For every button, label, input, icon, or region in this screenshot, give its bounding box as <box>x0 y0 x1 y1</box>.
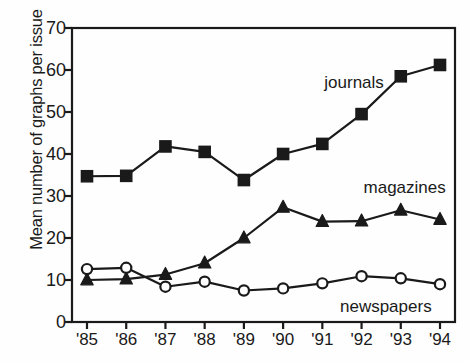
data-point-marker <box>81 171 92 182</box>
x-tick-label: '94 <box>417 330 463 350</box>
data-point-marker <box>278 148 289 159</box>
data-point-marker <box>435 279 445 289</box>
data-point-marker <box>160 282 170 292</box>
data-point-marker <box>199 146 210 157</box>
series-label-newspapers: newspapers <box>340 297 432 317</box>
data-point-marker <box>356 109 367 120</box>
data-point-marker <box>238 174 249 185</box>
data-point-marker <box>395 71 406 82</box>
data-point-marker <box>317 138 328 149</box>
data-point-marker <box>200 277 210 287</box>
data-point-marker <box>356 271 366 281</box>
data-point-marker <box>278 283 288 293</box>
data-point-marker <box>277 200 289 212</box>
series-label-magazines: magazines <box>364 178 446 198</box>
data-point-marker <box>238 231 250 243</box>
data-point-marker <box>396 273 406 283</box>
data-point-marker <box>198 256 210 268</box>
data-point-marker <box>82 264 92 274</box>
data-point-marker <box>317 278 327 288</box>
x-axis-tick-labels: '85'86'87'88'89'90'91'92'93'94 <box>0 330 470 360</box>
data-point-marker <box>239 285 249 295</box>
data-point-marker <box>395 203 407 215</box>
chart-figure: Mean number of graphs per issue 01020304… <box>0 0 470 362</box>
data-point-marker <box>160 141 171 152</box>
data-point-marker <box>434 59 445 70</box>
data-point-marker <box>121 263 131 273</box>
data-point-marker <box>121 170 132 181</box>
series-label-journals: journals <box>324 73 384 93</box>
